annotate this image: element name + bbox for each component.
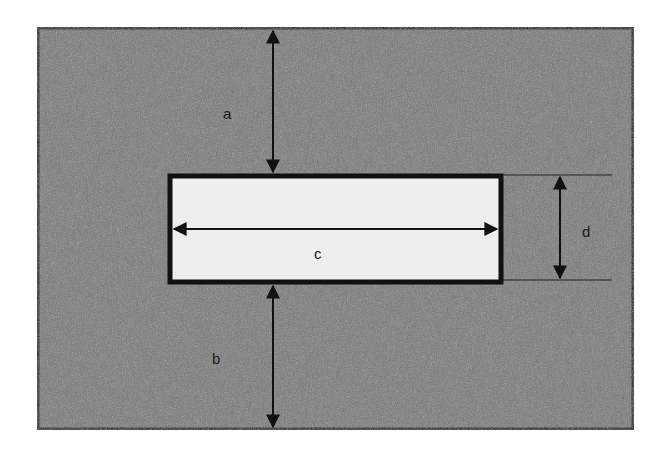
dimension-a-label: a: [223, 105, 232, 122]
dimension-b-label: b: [212, 350, 220, 367]
dimension-diagram: a b c d: [0, 0, 665, 452]
dimension-c-label: c: [314, 245, 322, 262]
dimension-d-label: d: [582, 223, 590, 240]
